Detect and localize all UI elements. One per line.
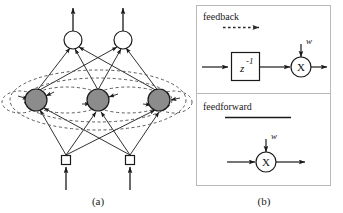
external-input-arrows — [66, 167, 130, 190]
rec-arrow-h1-b — [46, 92, 54, 96]
figure-root: (a) feedback z -1 w — [0, 0, 343, 213]
rec-arrow-h3-b — [171, 98, 180, 100]
output-layer-nodes — [64, 31, 132, 49]
edge-i1-h3 — [66, 110, 155, 155]
hidden-layer-nodes — [25, 89, 170, 111]
feedforward-label: feedforward — [203, 101, 252, 112]
feedforward-multiplier-label: X — [262, 156, 270, 168]
input-to-hidden-edges — [40, 108, 159, 155]
hidden-to-output-edges — [36, 47, 159, 92]
hidden-node-2 — [87, 89, 109, 111]
edge-i2-h1 — [44, 108, 130, 155]
delay-block-label: z — [239, 62, 245, 74]
output-node-2 — [114, 31, 132, 49]
edge-i2-h3 — [130, 112, 159, 155]
edge-h2-o1 — [75, 49, 98, 90]
output-node-1 — [64, 31, 82, 49]
delay-block-exponent: -1 — [246, 56, 254, 66]
input-node-2 — [126, 156, 135, 165]
caption-b: (b) — [258, 195, 271, 208]
edge-i2-h2 — [101, 112, 130, 155]
rec-arrow-h2-b — [109, 94, 118, 97]
panel-a-network: (a) — [2, 8, 192, 208]
edge-i1-h1 — [40, 110, 66, 155]
edge-h1-o2 — [36, 47, 117, 92]
input-layer-nodes — [62, 156, 135, 165]
feedback-multiplier-label: X — [297, 61, 305, 73]
feedback-label: feedback — [203, 11, 239, 22]
hidden-node-3 — [148, 89, 170, 111]
figure-canvas: (a) feedback z -1 w — [0, 0, 343, 213]
edge-h1-o1 — [36, 48, 70, 92]
feedforward-weight-label: w — [271, 131, 277, 141]
hidden-node-1 — [25, 89, 47, 111]
panel-b-connection-types: feedback z -1 w X — [197, 6, 331, 209]
input-node-1 — [62, 156, 71, 165]
output-arrows — [73, 8, 123, 31]
feedback-weight-label: w — [306, 36, 312, 46]
caption-a: (a) — [92, 195, 105, 208]
edge-h3-o1 — [79, 47, 159, 92]
